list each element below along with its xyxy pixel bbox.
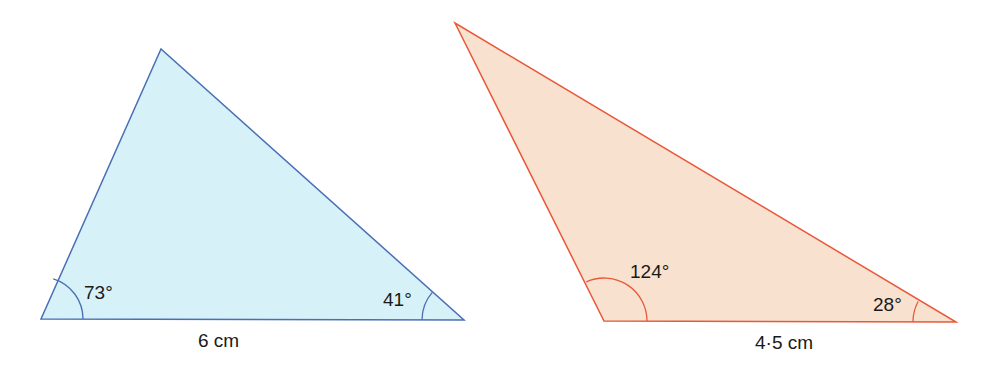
triangle-1-angle-left-label: 73°	[84, 282, 113, 303]
diagram-canvas: 73° 41° 6 cm 124° 28° 4·5 cm	[0, 0, 1006, 365]
triangle-1-base-label: 6 cm	[198, 330, 239, 351]
triangle-2-base-label: 4·5 cm	[755, 332, 813, 353]
triangle-2-angle-right-label: 28°	[873, 294, 902, 315]
triangle-2-shape	[455, 23, 956, 322]
triangle-1-shape	[41, 49, 464, 320]
triangle-2: 124° 28° 4·5 cm	[455, 23, 956, 353]
triangle-1-angle-right-label: 41°	[383, 289, 412, 310]
triangle-1: 73° 41° 6 cm	[41, 49, 464, 351]
triangle-2-angle-left-label: 124°	[630, 261, 669, 282]
